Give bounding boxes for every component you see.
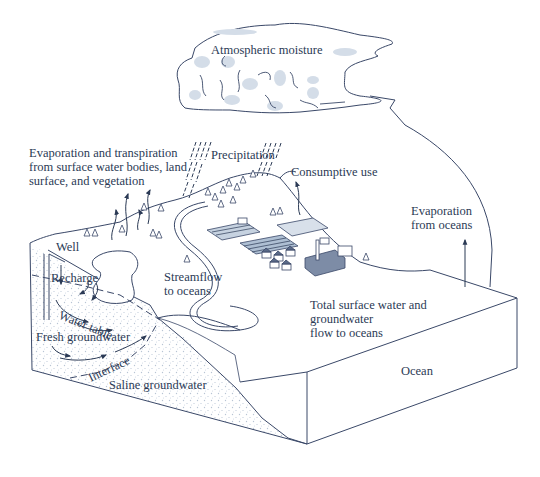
label-line: Total surface water and [310, 298, 427, 312]
tree-icon [230, 196, 236, 203]
tree-icon [277, 207, 283, 214]
label-recharge: Recharge [51, 271, 98, 285]
tree-icon [226, 179, 232, 186]
tree-icon [141, 203, 147, 210]
label-line: flow to oceans [310, 326, 427, 340]
tree-icon [150, 229, 156, 236]
label-line: from surface water bodies, land [29, 160, 187, 174]
label-line: Evaporation [411, 204, 472, 218]
label-ocean: Ocean [401, 364, 433, 378]
tree-icon [234, 183, 240, 190]
tree-icon [212, 193, 218, 200]
town [207, 218, 352, 276]
label-streamflow: Streamflow to oceans [164, 270, 222, 298]
label-well: Well [56, 240, 79, 254]
label-line: Evaporation and transpiration [29, 146, 187, 160]
arrow-icon [126, 194, 128, 236]
arrow-icon [112, 210, 117, 240]
label-consumptive-use: Consumptive use [291, 165, 377, 179]
label-total-flow: Total surface water and groundwater flow… [310, 298, 427, 340]
label-saline-groundwater: Saline groundwater [109, 378, 207, 392]
label-evapotranspiration: Evaporation and transpiration from surfa… [29, 146, 187, 188]
atmospheric-return-path [370, 96, 492, 287]
tree-icon [184, 255, 190, 262]
tree-icon [92, 229, 98, 236]
hydrologic-cycle-diagram [0, 0, 540, 477]
ocean-block [240, 270, 517, 444]
arrow-icon [148, 190, 150, 224]
label-line: from oceans [411, 218, 472, 232]
tree-icon [218, 200, 224, 207]
field-icon [277, 218, 328, 236]
tree-icon [220, 186, 226, 193]
label-line: groundwater [310, 312, 427, 326]
tree-icon [205, 188, 211, 195]
cloud-icon [177, 23, 392, 112]
tree-icon [119, 225, 125, 232]
label-evaporation-from-oceans: Evaporation from oceans [411, 204, 472, 232]
tree-icon [363, 253, 369, 260]
label-precipitation: Precipitation [211, 148, 275, 162]
tree-icon [240, 176, 246, 183]
tree-icon [156, 231, 162, 238]
label-fresh-groundwater: Fresh groundwater [36, 330, 130, 344]
tree-icon [270, 208, 276, 215]
arrow-icon [138, 210, 140, 230]
lake [92, 251, 137, 304]
label-line: surface, and vegetation [29, 174, 187, 188]
label-atmospheric-moisture: Atmospheric moisture [211, 43, 322, 57]
label-line: Streamflow [164, 270, 222, 284]
tree-icon [158, 204, 164, 211]
label-line: to oceans [164, 284, 222, 298]
field-icon [207, 222, 260, 240]
tree-icon [84, 229, 90, 236]
